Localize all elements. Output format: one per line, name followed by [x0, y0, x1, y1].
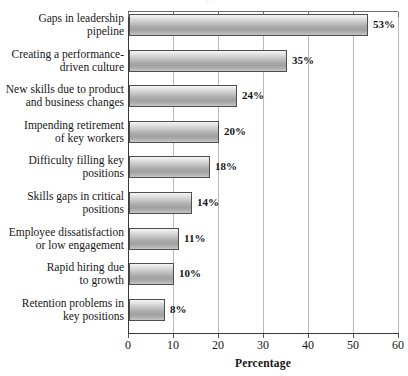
category-label-line: Difficulty filling key: [0, 154, 124, 167]
category-label-line: New skills due to product: [0, 83, 124, 96]
category-label-line: Employee dissatisfaction: [0, 226, 124, 239]
plot-area: 53%35%24%20%18%14%11%10%8%: [128, 11, 398, 334]
bar-value-label: 24%: [242, 88, 264, 102]
category-label-line: Retention problems in: [0, 297, 124, 310]
category-label-line: Creating a performance-: [0, 48, 124, 61]
category-label: Employee dissatisfactionor low engagemen…: [0, 226, 124, 252]
category-label-line: key positions: [0, 310, 124, 323]
x-tick-label-50: 50: [338, 338, 368, 352]
x-tick-label-30: 30: [248, 338, 278, 352]
bar-value-label: 53%: [373, 17, 395, 31]
category-label: Retention problems inkey positions: [0, 297, 124, 323]
bar-value-label: 11%: [184, 231, 205, 245]
category-label: Difficulty filling keypositions: [0, 154, 124, 180]
bar-row: 20%: [129, 121, 399, 143]
category-label-line: Gaps in leadership: [0, 12, 124, 25]
bar: [129, 228, 179, 250]
bar: [129, 85, 237, 107]
bar-row: 53%: [129, 14, 399, 36]
bar-value-label: 20%: [224, 124, 246, 138]
category-label-line: to growth: [0, 274, 124, 287]
category-label-line: positions: [0, 203, 124, 216]
category-label: Rapid hiring dueto growth: [0, 261, 124, 287]
bar-value-label: 35%: [292, 53, 314, 67]
x-tick-label-20: 20: [203, 338, 233, 352]
bar-value-label: 8%: [170, 302, 187, 316]
category-label: Gaps in leadershippipeline: [0, 12, 124, 38]
category-label-line: of key workers: [0, 132, 124, 145]
bar-row: 11%: [129, 228, 399, 250]
category-label-line: or low engagement: [0, 239, 124, 252]
bar-row: 10%: [129, 263, 399, 285]
bar: [129, 156, 210, 178]
bar-row: 14%: [129, 192, 399, 214]
scan-edge-remnant: · ·: [60, 0, 360, 5]
category-label: Impending retirementof key workers: [0, 119, 124, 145]
category-label-line: Impending retirement: [0, 119, 124, 132]
category-label-line: positions: [0, 167, 124, 180]
bars-layer: 53%35%24%20%18%14%11%10%8%: [128, 11, 398, 334]
bar: [129, 121, 219, 143]
bar: [129, 14, 368, 36]
x-axis-tick-labels: 0102030405060: [128, 338, 403, 354]
category-label-line: Rapid hiring due: [0, 261, 124, 274]
category-label-line: driven culture: [0, 61, 124, 74]
bar-row: 35%: [129, 50, 399, 72]
x-tick-label-60: 60: [383, 338, 408, 352]
bar-chart-figure: · · Gaps in leadershippipelineCreating a…: [0, 0, 408, 376]
category-label-line: pipeline: [0, 25, 124, 38]
bar-row: 18%: [129, 156, 399, 178]
bar: [129, 50, 287, 72]
bar: [129, 192, 192, 214]
x-axis-title: Percentage: [128, 356, 398, 370]
category-label: Creating a performance-driven culture: [0, 48, 124, 74]
bar-value-label: 14%: [197, 195, 219, 209]
x-tick-label-10: 10: [158, 338, 188, 352]
x-tick-label-0: 0: [113, 338, 143, 352]
bar-row: 24%: [129, 85, 399, 107]
bar-row: 8%: [129, 299, 399, 321]
x-tick-label-40: 40: [293, 338, 323, 352]
category-axis-labels: Gaps in leadershippipelineCreating a per…: [0, 11, 124, 334]
bar: [129, 263, 174, 285]
category-label-line: and business changes: [0, 96, 124, 109]
bar: [129, 299, 165, 321]
category-label-line: Skills gaps in critical: [0, 190, 124, 203]
category-label: Skills gaps in criticalpositions: [0, 190, 124, 216]
category-label: New skills due to productand business ch…: [0, 83, 124, 109]
bar-value-label: 10%: [179, 266, 201, 280]
bar-value-label: 18%: [215, 159, 237, 173]
